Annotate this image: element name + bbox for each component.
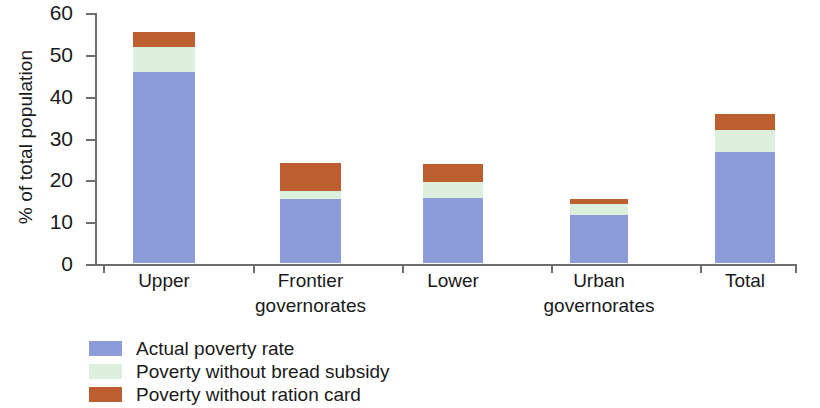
x-axis-line: [95, 264, 795, 266]
legend-item[interactable]: Poverty without ration card: [89, 383, 389, 406]
bar-upper: [133, 32, 195, 263]
y-tick-0: 0: [86, 264, 95, 266]
bar-segment: [280, 163, 341, 191]
y-tick-40: 40: [86, 97, 95, 99]
category-label-line: Total: [655, 268, 820, 293]
bar-segment: [280, 199, 341, 263]
legend-label: Poverty without bread subsidy: [136, 361, 389, 383]
bar-segment: [423, 198, 483, 263]
category-label-line: governorates: [509, 293, 689, 318]
bar-segment: [715, 152, 775, 263]
y-axis-title: % of total population: [15, 7, 37, 267]
stacked-bar-chart: % of total population 0102030405060 Uppe…: [0, 0, 820, 408]
category-label-total: Total: [655, 268, 820, 293]
legend-swatch: [89, 341, 122, 356]
y-tick-20: 20: [86, 180, 95, 182]
bar-total: [715, 114, 775, 263]
legend-label: Poverty without ration card: [136, 384, 361, 406]
bar-segment: [133, 47, 195, 72]
y-tick-10: 10: [86, 222, 95, 224]
y-tick-60: 60: [86, 13, 95, 15]
legend-label: Actual poverty rate: [136, 338, 294, 360]
y-tick-label: 60: [50, 1, 73, 25]
bar-segment: [570, 215, 628, 263]
bar-segment: [715, 130, 775, 152]
bar-segment: [423, 182, 483, 198]
bar-segment: [133, 32, 195, 47]
bar-segment: [280, 191, 341, 199]
category-label-line: governorates: [221, 293, 401, 318]
bar-lower: [423, 164, 483, 263]
bar-frontier-governorates: [280, 163, 341, 263]
legend-item[interactable]: Actual poverty rate: [89, 337, 389, 360]
bar-urban-governorates: [570, 199, 628, 263]
y-tick-label: 30: [50, 127, 73, 151]
legend-swatch: [89, 364, 122, 379]
bar-segment: [715, 114, 775, 130]
bar-segment: [133, 72, 195, 263]
y-tick-label: 0: [61, 252, 73, 276]
y-tick-label: 10: [50, 210, 73, 234]
legend-item[interactable]: Poverty without bread subsidy: [89, 360, 389, 383]
bar-segment: [570, 204, 628, 215]
y-axis-line: [95, 13, 97, 265]
y-tick-label: 20: [50, 168, 73, 192]
chart-legend: Actual poverty ratePoverty without bread…: [89, 337, 389, 406]
legend-swatch: [89, 387, 122, 402]
y-tick-30: 30: [86, 139, 95, 141]
y-tick-label: 50: [50, 43, 73, 67]
bar-segment: [423, 164, 483, 182]
y-tick-50: 50: [86, 55, 95, 57]
plot-area: 0102030405060: [95, 13, 795, 264]
y-tick-label: 40: [50, 85, 73, 109]
